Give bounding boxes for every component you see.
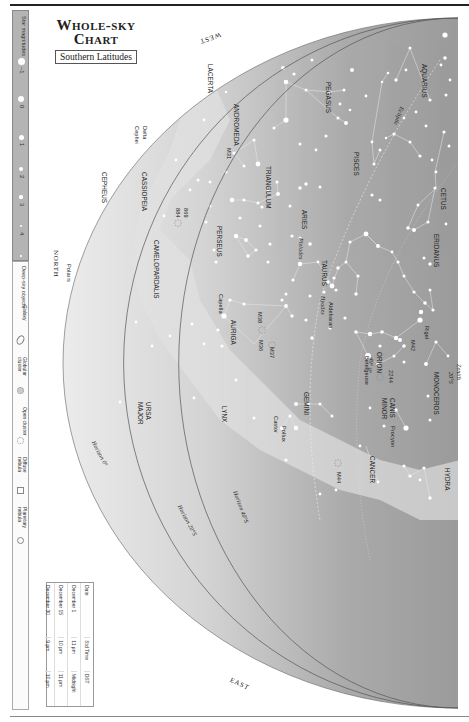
cell-std-time: 10 pm: [58, 637, 64, 670]
legend-strip: Star magnitudes –1012345 Deep-sky object…: [12, 10, 29, 710]
cell-date: December 1: [71, 583, 77, 637]
star-icon: [403, 425, 408, 430]
star-icon: [380, 330, 384, 334]
header-date: Date: [84, 583, 90, 637]
star-icon: [283, 117, 288, 122]
deep-sky-legend-label: Diffuse nebula: [17, 457, 27, 487]
star-icon: [284, 304, 288, 308]
star-icon: [304, 182, 307, 185]
header-std-time: Std Time: [84, 637, 90, 670]
star-icon: [289, 205, 292, 208]
star-icon: [235, 379, 238, 382]
star-icon: [336, 266, 340, 270]
star-icon: [322, 290, 325, 293]
star-icon: [315, 149, 318, 152]
constellation-label: CANCER: [369, 456, 376, 483]
star-icon: [284, 458, 287, 461]
cell-dst: Midnight: [71, 671, 77, 706]
star-icon: [442, 130, 445, 133]
direction-label-north: NORTH: [52, 250, 60, 278]
star-icon: [308, 242, 312, 246]
star-icon: [448, 145, 451, 148]
constellation-label: LYNX: [221, 406, 228, 422]
star-icon: [246, 254, 250, 258]
star-icon: [215, 79, 218, 82]
constellation-label: MINOR: [381, 398, 388, 420]
constellation-label: MAJOR: [137, 402, 144, 425]
deep-sky-legend: Deep-sky objects GalaxyGlobular clusterO…: [12, 261, 29, 710]
deep-sky-object-label: Hyades: [320, 296, 326, 315]
star-icon: [239, 217, 242, 220]
star-icon: [267, 261, 270, 264]
star-icon: [418, 154, 421, 157]
star-icon: [331, 415, 334, 418]
star-icon: [429, 419, 432, 422]
star-icon: [354, 292, 357, 295]
magnitude-dot-icon: [19, 167, 23, 171]
constellation-label: AURIGA: [230, 320, 237, 345]
star-name-label: Procyon: [390, 426, 396, 447]
deep-sky-legend-label: Open cluster: [22, 407, 27, 437]
star-icon: [294, 402, 298, 406]
galaxy-ellipse-icon: [15, 334, 26, 346]
star-icon: [364, 232, 369, 237]
star-icon: [428, 262, 431, 265]
constellation-label: MONOCEROS: [433, 372, 440, 415]
star-icon: [445, 223, 448, 226]
star-icon: [169, 335, 172, 338]
star-icon: [387, 72, 390, 75]
star-name-label: Polaris: [66, 264, 72, 282]
star-icon: [393, 355, 396, 358]
star-icon: [356, 274, 359, 277]
subtitle-badge: Southern Latitudes: [55, 50, 137, 64]
star-icon: [216, 328, 219, 331]
star-icon: [317, 261, 320, 264]
star-icon: [290, 234, 293, 237]
star-icon: [345, 261, 348, 264]
page-title-line2: Chart: [46, 32, 146, 46]
star-icon: [304, 318, 307, 321]
star-name-label: Delta: [142, 126, 148, 140]
star-icon: [427, 395, 430, 398]
constellation-label: ARIES: [301, 210, 308, 229]
constellation-label: TAURUS: [321, 260, 328, 286]
star-icon: [394, 336, 398, 340]
constellation-label: AQUARIUS: [421, 64, 428, 98]
star-icon: [403, 117, 406, 120]
open-cluster-icon: [17, 437, 24, 444]
star-icon: [305, 89, 308, 92]
cell-std-time: 11 pm: [71, 637, 77, 670]
constellation-label: GEMINI: [303, 392, 310, 415]
magnitude-dot-icon: [20, 225, 22, 227]
star-icon: [209, 181, 212, 184]
star-icon: [402, 464, 405, 467]
constellation-label: CEPHEUS: [101, 172, 108, 203]
constellation-label: CETUS: [440, 188, 447, 210]
star-icon: [228, 298, 231, 301]
star-icon: [273, 127, 276, 130]
star-icon: [285, 293, 288, 296]
star-icon: [378, 344, 381, 347]
star-icon: [309, 295, 312, 298]
star-icon: [298, 262, 302, 266]
deep-sky-object-label: 2244: [388, 370, 394, 383]
star-icon: [428, 98, 431, 101]
star-icon: [232, 151, 235, 154]
star-icon: [373, 163, 376, 166]
star-icon: [344, 121, 348, 125]
star-icon: [403, 275, 406, 278]
star-icon: [354, 330, 358, 334]
star-icon: [419, 479, 422, 482]
star-icon: [163, 215, 166, 218]
star-icon: [280, 298, 283, 301]
cell-date: December 15: [58, 583, 64, 637]
star-icon: [299, 143, 302, 146]
star-icon: [242, 302, 245, 305]
star-icon: [379, 149, 382, 152]
deep-sky-legend-label: Galaxy: [22, 305, 27, 335]
constellation-label: LACERTA: [207, 64, 214, 93]
magnitude-label: 4: [19, 232, 25, 235]
star-icon: [434, 340, 437, 343]
deep-sky-object-label: M44: [336, 472, 342, 483]
star-icon: [343, 89, 346, 92]
